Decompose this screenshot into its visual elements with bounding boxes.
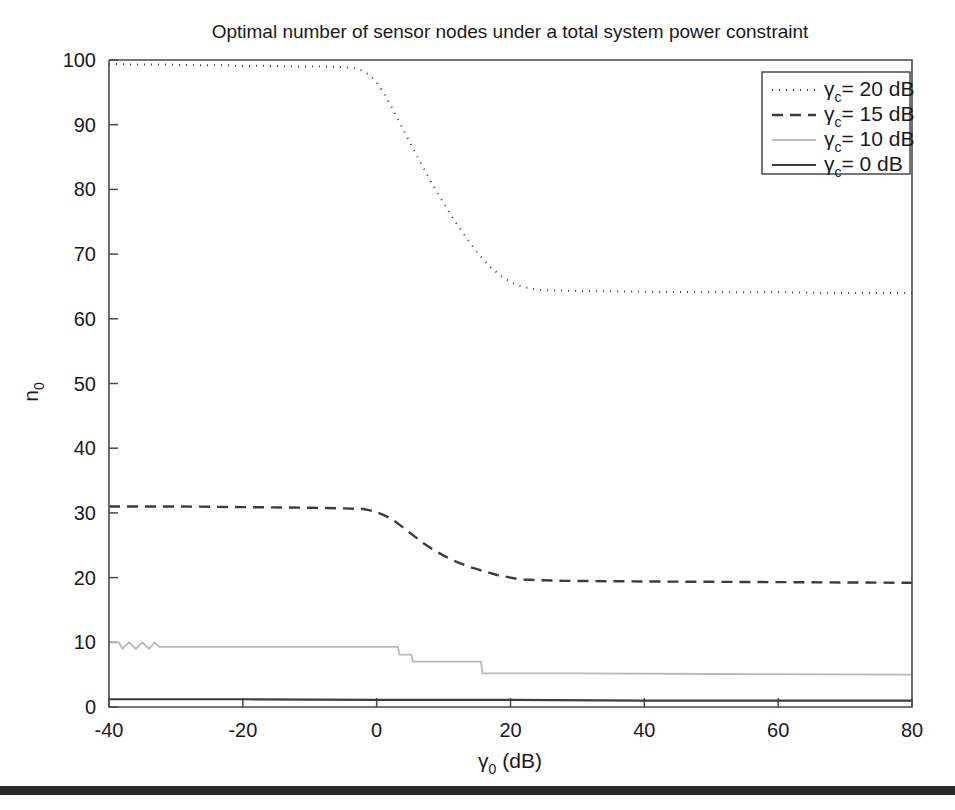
y-tick-label-50: 50	[74, 373, 96, 395]
legend-value-2: = 10 dB	[842, 127, 915, 150]
y-tick-label-40: 40	[74, 437, 96, 459]
x-tick-label-80: 80	[901, 719, 923, 741]
legend-gamma-2: γ	[824, 127, 835, 150]
x-axis-label-unit: (dB)	[496, 749, 542, 772]
y-tick-label-0: 0	[85, 696, 96, 718]
legend-subscript-2: c	[835, 139, 842, 155]
y-tick-label-30: 30	[74, 502, 96, 524]
y-axis-label-subscript: 0	[31, 382, 47, 390]
x-tick-label-40: 40	[633, 719, 655, 741]
legend-value-3: = 0 dB	[842, 152, 903, 175]
x-axis-label-gamma: γ	[478, 749, 489, 772]
legend-gamma-0: γ	[824, 77, 835, 100]
x-axis-label-subscript: 0	[489, 761, 497, 777]
legend-gamma-1: γ	[824, 102, 835, 125]
chart-figure: Optimal number of sensor nodes under a t…	[0, 0, 955, 810]
y-tick-label-80: 80	[74, 178, 96, 200]
x-tick-label--40: -40	[95, 719, 124, 741]
legend-subscript-0: c	[835, 89, 842, 105]
legend-gamma-3: γ	[824, 152, 835, 175]
y-tick-label-10: 10	[74, 631, 96, 653]
y-tick-label-70: 70	[74, 243, 96, 265]
x-tick-label-60: 60	[767, 719, 789, 741]
y-axis-label-n: n	[19, 390, 42, 402]
y-tick-label-60: 60	[74, 308, 96, 330]
x-tick-label--20: -20	[228, 719, 257, 741]
x-tick-label-20: 20	[499, 719, 521, 741]
series-line-3	[109, 699, 912, 700]
x-tick-label-0: 0	[371, 719, 382, 741]
legend-subscript-3: c	[835, 164, 842, 180]
chart-legend: γc= 20 dBγc= 15 dBγc= 10 dBγc= 0 dB	[762, 72, 914, 180]
legend-value-1: = 15 dB	[842, 102, 915, 125]
chart-svg: Optimal number of sensor nodes under a t…	[0, 0, 955, 810]
y-tick-label-90: 90	[74, 114, 96, 136]
scan-artifact-bar	[0, 786, 955, 795]
legend-value-0: = 20 dB	[842, 77, 915, 100]
chart-title: Optimal number of sensor nodes under a t…	[212, 21, 809, 42]
y-tick-label-20: 20	[74, 567, 96, 589]
y-tick-label-100: 100	[63, 49, 96, 71]
legend-subscript-1: c	[835, 114, 842, 130]
